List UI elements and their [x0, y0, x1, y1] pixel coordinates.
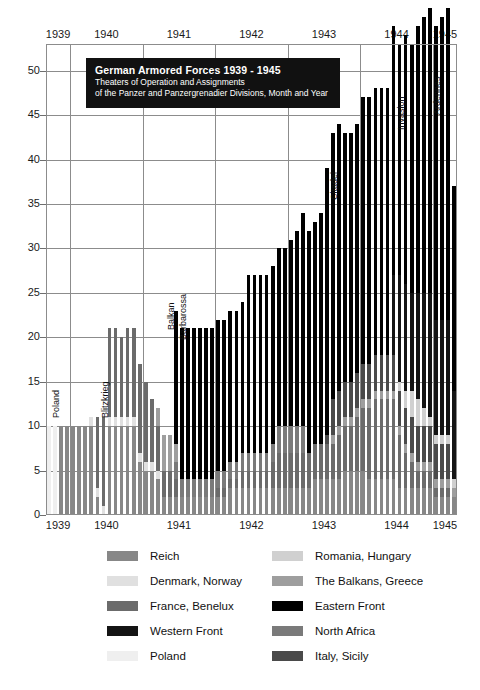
y-axis-tick-label: 35 — [6, 197, 40, 209]
legend-item: Reich — [107, 543, 242, 568]
x-axis-year-label: 1939 — [34, 28, 82, 40]
legend-label: Italy, Sicily — [315, 650, 368, 662]
legend-swatch — [107, 601, 138, 611]
legend-swatch — [272, 626, 303, 636]
legend-swatch — [272, 576, 303, 586]
legend-swatch — [272, 601, 303, 611]
x-axis-year-label: 1940 — [82, 28, 130, 40]
legend-swatch — [107, 576, 138, 586]
legend-label: Romania, Hungary — [315, 550, 411, 562]
y-axis-tick-label: 30 — [6, 241, 40, 253]
y-axis-tick-label: 10 — [6, 419, 40, 431]
legend-swatch — [272, 651, 303, 661]
y-axis-tick-label: 20 — [6, 330, 40, 342]
legend-item: Denmark, Norway — [107, 568, 242, 593]
legend-item: Poland — [107, 643, 242, 668]
y-axis-tick-label: 15 — [6, 375, 40, 387]
legend-label: Reich — [150, 550, 179, 562]
legend-label: Denmark, Norway — [150, 575, 242, 587]
legend-item: The Balkans, Greece — [272, 568, 423, 593]
y-axis-tick-label: 25 — [6, 286, 40, 298]
legend-swatch — [107, 651, 138, 661]
legend-label: The Balkans, Greece — [315, 575, 423, 587]
chart-page: 1939194019411942194319441945 05101520253… — [0, 0, 480, 690]
x-axis-year-label: 1944 — [373, 519, 421, 531]
x-axis-year-label: 1942 — [228, 28, 276, 40]
x-axis-year-label: 1943 — [300, 519, 348, 531]
legend-item: Western Front — [107, 618, 242, 643]
y-axis-tick-label: 50 — [6, 64, 40, 76]
x-axis-year-label: 1941 — [155, 519, 203, 531]
legend-item: France, Benelux — [107, 593, 242, 618]
x-axis-year-label: 1945 — [421, 519, 469, 531]
y-axis-tick-label: 45 — [6, 108, 40, 120]
y-axis-tick-label: 5 — [6, 464, 40, 476]
legend-item: North Africa — [272, 618, 423, 643]
legend-item: Romania, Hungary — [272, 543, 423, 568]
x-axis-year-label: 1941 — [155, 28, 203, 40]
chart-subtitle-line2: of the Panzer and Panzergrenadier Divisi… — [95, 88, 331, 99]
y-axis-tick-mark — [40, 515, 46, 516]
legend-item: Italy, Sicily — [272, 643, 423, 668]
legend-label: France, Benelux — [150, 600, 234, 612]
legend-swatch — [272, 551, 303, 561]
legend-swatch — [107, 551, 138, 561]
y-axis-tick-label: 40 — [6, 153, 40, 165]
legend-column-left: ReichDenmark, NorwayFrance, BeneluxWeste… — [107, 543, 242, 668]
legend-item: Eastern Front — [272, 593, 423, 618]
x-axis-year-label: 1940 — [82, 519, 130, 531]
chart-subtitle-line1: Theaters of Operation and Assignments — [95, 77, 331, 88]
x-axis-year-label: 1944 — [373, 28, 421, 40]
legend-label: Poland — [150, 650, 186, 662]
x-axis-year-label: 1943 — [300, 28, 348, 40]
x-axis-year-label: 1939 — [34, 519, 82, 531]
chart-title: German Armored Forces 1939 - 1945 — [95, 64, 331, 77]
plot-frame — [46, 44, 457, 515]
x-axis-year-label: 1942 — [228, 519, 276, 531]
legend-column-right: Romania, HungaryThe Balkans, GreeceEaste… — [272, 543, 423, 668]
plot-area: PolandBlitzkriegBalkanBarbarossaCitadelI… — [46, 44, 457, 515]
legend-label: Western Front — [150, 625, 223, 637]
chart-title-box: German Armored Forces 1939 - 1945 Theate… — [86, 58, 340, 108]
legend-label: Eastern Front — [315, 600, 385, 612]
legend-swatch — [107, 626, 138, 636]
legend-label: North Africa — [315, 625, 375, 637]
